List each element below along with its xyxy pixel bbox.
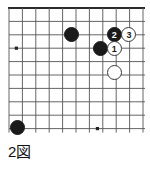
figure-caption: 2図 bbox=[8, 142, 31, 162]
stone-black-black-upper-left-area[interactable] bbox=[64, 27, 79, 42]
star-point bbox=[15, 47, 18, 50]
go-board-grid bbox=[0, 0, 150, 137]
star-point bbox=[96, 127, 99, 130]
go-board[interactable] bbox=[0, 0, 150, 137]
stone-black-black-center[interactable] bbox=[93, 41, 108, 56]
go-diagram-figure: 231 2図 bbox=[0, 0, 150, 169]
stone-white-white-lower[interactable] bbox=[107, 65, 122, 80]
stone-move-1[interactable]: 1 bbox=[107, 41, 122, 56]
